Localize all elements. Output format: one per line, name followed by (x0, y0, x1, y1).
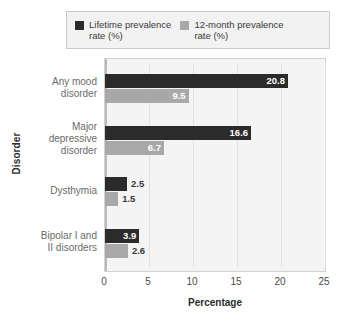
plot-area: 20.89.516.66.72.51.53.92.6 (104, 58, 326, 272)
bar (105, 74, 288, 88)
bar-row: 2.5 (105, 177, 325, 191)
legend-entry-12month: 12-month prevalence rate (%) (180, 19, 283, 42)
bar-value-label: 9.5 (172, 89, 185, 103)
bar-value-label: 2.5 (131, 177, 144, 191)
bar-chart: Lifetime prevalence rate (%) 12-month pr… (0, 0, 345, 319)
bar-value-label: 2.6 (132, 244, 145, 258)
legend-swatch-lifetime (75, 21, 84, 30)
x-tick-label: 5 (136, 276, 160, 287)
bar (105, 192, 118, 206)
bar-group: 16.66.7 (105, 126, 325, 155)
bar-row: 16.6 (105, 126, 325, 140)
bar-group: 3.92.6 (105, 229, 325, 258)
bar-row: 3.9 (105, 229, 325, 243)
bar-value-label: 16.6 (230, 126, 249, 140)
bar-row: 6.7 (105, 141, 325, 155)
bar-value-label: 3.9 (123, 229, 136, 243)
gridline (325, 63, 326, 267)
category-label: Dysthymia (1, 185, 97, 197)
legend-swatch-12month (180, 21, 189, 30)
bar-value-label: 1.5 (122, 192, 135, 206)
bar-value-label: 20.8 (267, 74, 286, 88)
legend-label-lifetime: Lifetime prevalence rate (%) (89, 19, 171, 42)
x-tick-label: 25 (312, 276, 336, 287)
bar-row: 20.8 (105, 74, 325, 88)
chart-legend: Lifetime prevalence rate (%) 12-month pr… (66, 11, 330, 49)
bar (105, 177, 127, 191)
bar-group: 2.51.5 (105, 177, 325, 206)
x-tick-label: 15 (224, 276, 248, 287)
bar-group: 20.89.5 (105, 74, 325, 103)
plot-inner: 20.89.516.66.72.51.53.92.6 (105, 63, 325, 267)
x-tick-label: 20 (268, 276, 292, 287)
bar (105, 244, 128, 258)
category-label: Major depressive disorder (1, 121, 97, 157)
x-tick-label: 0 (92, 276, 116, 287)
bar-row: 1.5 (105, 192, 325, 206)
category-label: Any mood disorder (1, 76, 97, 100)
x-tick-label: 10 (180, 276, 204, 287)
bar-value-label: 6.7 (148, 141, 161, 155)
bar-row: 9.5 (105, 89, 325, 103)
category-label: Bipolar I and II disorders (1, 230, 97, 254)
bar-row: 2.6 (105, 244, 325, 258)
x-axis-title: Percentage (104, 297, 326, 308)
legend-entry-lifetime: Lifetime prevalence rate (%) (75, 19, 171, 42)
legend-label-12month: 12-month prevalence rate (%) (194, 19, 283, 42)
